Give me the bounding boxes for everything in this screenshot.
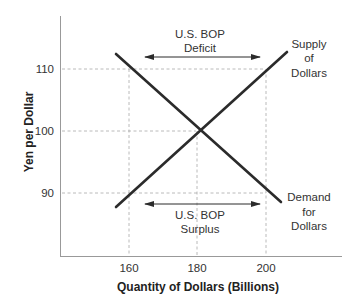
supply-label-line1: Supply: [291, 38, 326, 50]
deficit-label-line2: Deficit: [184, 42, 217, 54]
y-tick-110: 110: [36, 63, 54, 75]
chart: 110 100 90 160 180 200 Quantity of Dolla…: [0, 0, 361, 306]
supply-label-line2: of: [304, 52, 314, 64]
x-tick-200: 200: [256, 262, 275, 274]
demand-label-line1: Demand: [287, 191, 330, 203]
x-tick-160: 160: [119, 262, 138, 274]
demand-curve: [116, 54, 281, 202]
surplus-label-line2: Surplus: [181, 223, 220, 235]
demand-label-line3: Dollars: [291, 220, 327, 232]
x-tick-180: 180: [187, 262, 206, 274]
supply-label-line3: Dollars: [291, 67, 327, 79]
surplus-label-line1: U.S. BOP: [175, 209, 225, 221]
x-axis-title: Quantity of Dollars (Billions): [117, 280, 279, 294]
y-tick-90: 90: [41, 187, 54, 199]
demand-label-line2: for: [302, 206, 316, 218]
y-tick-100: 100: [35, 125, 54, 137]
y-axis-title: Yen per Dollar: [22, 91, 36, 172]
deficit-label-line1: U.S. BOP: [175, 28, 225, 40]
